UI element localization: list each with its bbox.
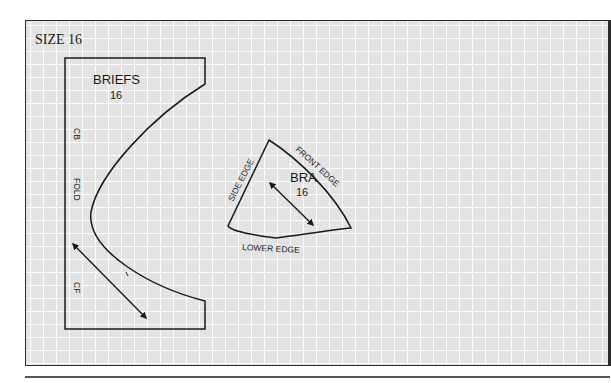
size-label: SIZE 16 xyxy=(35,32,82,47)
bra-outline xyxy=(228,140,351,238)
briefs-outline xyxy=(65,58,205,329)
bra-side-edge-label: SIDE EDGE xyxy=(226,157,256,203)
briefs-notch xyxy=(126,272,128,276)
briefs-label-cf: CF xyxy=(72,282,82,293)
bra-lower-edge-label: LOWER EDGE xyxy=(242,242,300,255)
briefs-title: BRIEFS xyxy=(93,72,140,87)
briefs-size: 16 xyxy=(110,89,122,101)
briefs-grainline-arrow xyxy=(73,244,146,318)
briefs-label-cb: CB xyxy=(72,128,82,140)
briefs-label-fold: FOLD xyxy=(72,178,82,201)
bra-title: BRA xyxy=(290,170,317,185)
briefs-piece: BRIEFS 16 CB FOLD CF xyxy=(65,58,205,329)
bra-size: 16 xyxy=(296,186,308,198)
bra-piece: BRA 16 SIDE EDGE FRONT EDGE LOWER EDGE xyxy=(226,140,351,255)
